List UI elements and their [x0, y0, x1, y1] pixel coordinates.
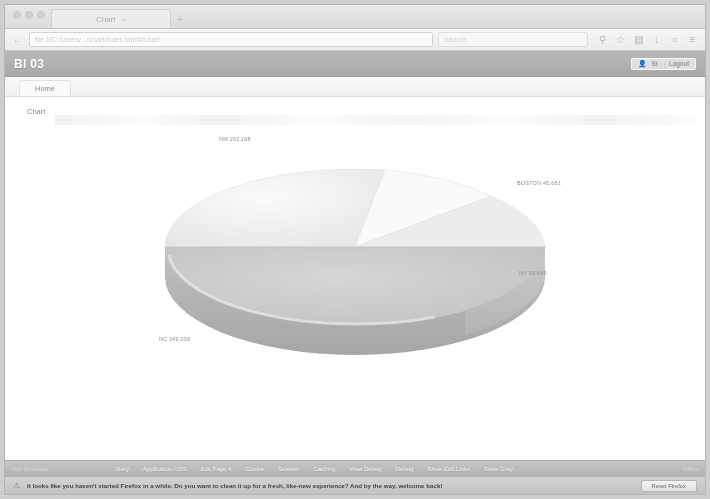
account-icon[interactable]: ○: [668, 33, 681, 46]
user-name: Sr.: [651, 60, 659, 67]
devbar-item-caching[interactable]: Caching: [313, 466, 335, 472]
page-title: BI 03: [14, 57, 44, 71]
tab-home-label: Home: [35, 84, 55, 93]
pie-label-nm: NM 202,168: [219, 136, 251, 142]
address-bar[interactable]: file:///C:/Users/.../chart/index.html#/c…: [29, 32, 433, 47]
back-icon[interactable]: ←: [11, 33, 24, 46]
user-menu[interactable]: 👤 Sr. | Logout: [631, 58, 696, 70]
devbar-title: Web Developer: [11, 466, 101, 472]
reset-firefox-button[interactable]: Reset Firefox: [641, 480, 697, 492]
main-content: Chart: [5, 97, 705, 460]
page-viewport: BI 03 👤 Sr. | Logout Home Chart: [5, 51, 705, 494]
devbar-items: Story Application CSS Edit Page 4 Cookie…: [115, 466, 669, 472]
user-separator: |: [663, 60, 665, 67]
maximize-window-button[interactable]: [37, 11, 45, 19]
devbar-item-edit-page[interactable]: Edit Page 4: [200, 466, 231, 472]
pie-label-nc: NC 349,039: [159, 336, 190, 342]
pie-chart[interactable]: NM 202,168 BOSTON 45,681 NY 93,645 NC 34…: [135, 127, 575, 367]
web-developer-toolbar: Web Developer Story Application CSS Edit…: [5, 460, 705, 476]
window-controls[interactable]: [9, 5, 51, 28]
browser-tab-label: Chart: [96, 15, 116, 24]
browser-tab-chart[interactable]: Chart ×: [51, 9, 171, 28]
close-icon[interactable]: ×: [121, 15, 126, 24]
download-icon[interactable]: ↓: [650, 33, 663, 46]
logout-link[interactable]: Logout: [669, 60, 689, 67]
navbar-icons: ⚲ ☆ ▤ ↓ ○ ≡: [593, 33, 699, 46]
devbar-item-store-grey[interactable]: Store Grey: [484, 466, 513, 472]
browser-navbar: ← file:///C:/Users/.../chart/index.html#…: [5, 29, 705, 51]
devbar-offline-label[interactable]: Offline: [683, 466, 699, 472]
devbar-item-debug[interactable]: Debug: [396, 466, 414, 472]
devbar-item-session[interactable]: Session: [278, 466, 299, 472]
tab-home[interactable]: Home: [19, 80, 71, 96]
minimize-window-button[interactable]: [25, 11, 33, 19]
pie-label-ny: NY 93,645: [519, 270, 547, 276]
user-icon: 👤: [638, 60, 647, 68]
search-placeholder: Search: [444, 36, 466, 43]
pie-label-boston: BOSTON 45,681: [517, 180, 561, 186]
devbar-item-cookie[interactable]: Cookie: [245, 466, 264, 472]
devbar-item-show-edit-links[interactable]: Show Edit Links: [427, 466, 470, 472]
reader-icon[interactable]: ▤: [632, 33, 645, 46]
menu-icon[interactable]: ≡: [686, 33, 699, 46]
app-tabbar: Home: [5, 77, 705, 97]
close-window-button[interactable]: [13, 11, 21, 19]
devbar-item-story[interactable]: Story: [115, 466, 129, 472]
new-tab-button[interactable]: +: [177, 14, 183, 28]
pie-slice-nm[interactable]: [165, 169, 385, 247]
faded-toolbar-row: [55, 115, 697, 125]
pie-chart-container: NM 202,168 BOSTON 45,681 NY 93,645 NC 34…: [5, 127, 705, 457]
search-icon[interactable]: ⚲: [596, 33, 609, 46]
notification-message: It looks like you haven't started Firefo…: [27, 482, 635, 489]
address-bar-url: file:///C:/Users/.../chart/index.html#/c…: [35, 36, 160, 43]
devbar-item-view-debug[interactable]: View Debug: [349, 466, 381, 472]
devbar-item-application-css[interactable]: Application CSS: [143, 466, 186, 472]
browser-tabstrip: Chart × +: [5, 5, 705, 29]
app-header: BI 03 👤 Sr. | Logout: [5, 51, 705, 77]
info-icon: ⚠: [13, 482, 21, 490]
search-input[interactable]: Search: [438, 32, 588, 47]
firefox-reset-notification: ⚠ It looks like you haven't started Fire…: [5, 476, 705, 494]
bookmark-star-icon[interactable]: ☆: [614, 33, 627, 46]
browser-window: Chart × + ← file:///C:/Users/.../chart/i…: [4, 4, 706, 495]
screenshot-root: Chart × + ← file:///C:/Users/.../chart/i…: [0, 0, 710, 499]
